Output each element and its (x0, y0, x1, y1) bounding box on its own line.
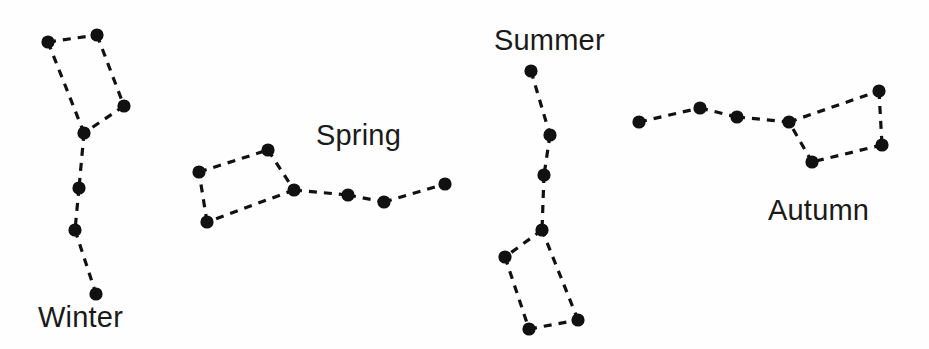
star-node (535, 223, 548, 236)
star-node (498, 250, 511, 263)
star-node (200, 215, 213, 228)
season-label-spring: Spring (316, 119, 401, 151)
constellation-figure: WinterSpringSummerAutumn (0, 0, 929, 349)
figure-background (0, 0, 929, 349)
star-node (77, 126, 90, 139)
star-node (522, 322, 535, 335)
star-node (782, 115, 795, 128)
star-node (192, 165, 205, 178)
star-node (72, 181, 85, 194)
star-node (377, 195, 390, 208)
season-label-summer: Summer (494, 24, 605, 56)
star-node (693, 101, 706, 114)
star-node (524, 64, 537, 77)
star-node (287, 183, 300, 196)
star-node (41, 35, 54, 48)
constellation-canvas: WinterSpringSummerAutumn (0, 0, 929, 349)
star-node (341, 188, 354, 201)
star-node (571, 313, 584, 326)
star-node (543, 128, 556, 141)
star-node (438, 177, 451, 190)
season-label-autumn: Autumn (768, 194, 869, 226)
star-node (730, 110, 743, 123)
star-node (90, 28, 103, 41)
star-node (875, 138, 888, 151)
star-node (89, 287, 102, 300)
season-label-winter: Winter (38, 301, 123, 333)
star-node (261, 143, 274, 156)
star-node (68, 223, 81, 236)
star-node (117, 99, 130, 112)
star-node (805, 155, 818, 168)
star-node (537, 168, 550, 181)
star-node (632, 115, 645, 128)
star-node (872, 84, 885, 97)
